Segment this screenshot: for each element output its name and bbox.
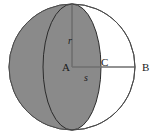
sphere-diagram-svg [0, 0, 160, 136]
geometry-figure: r s A C B [0, 0, 160, 136]
label-radius-r: r [68, 36, 72, 46]
label-point-b: B [142, 62, 149, 73]
label-segment-s: s [84, 73, 88, 83]
label-point-c: C [101, 57, 108, 68]
label-point-a: A [62, 62, 70, 73]
